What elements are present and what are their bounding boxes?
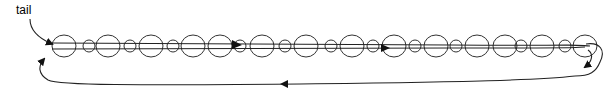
bead-large bbox=[382, 35, 406, 57]
bead-large bbox=[465, 35, 489, 57]
bead-small bbox=[450, 40, 462, 52]
turn-arrow-right bbox=[585, 50, 592, 67]
bead-small bbox=[367, 40, 379, 52]
return-path-bottom bbox=[40, 59, 575, 85]
thread-lower bbox=[52, 47, 585, 49]
bead-chain bbox=[52, 35, 597, 57]
bead-large bbox=[250, 35, 274, 57]
bead-large bbox=[181, 35, 205, 57]
bead-small bbox=[279, 40, 291, 52]
return-arrow-icon-bottom bbox=[280, 80, 288, 88]
bead-large bbox=[294, 35, 318, 57]
bead-large bbox=[530, 35, 554, 57]
bead-small bbox=[559, 40, 571, 52]
bead-small bbox=[83, 40, 95, 52]
bead-small bbox=[167, 40, 179, 52]
tail-pointer-arrow bbox=[30, 19, 52, 44]
bead-large bbox=[424, 35, 448, 57]
bead-large bbox=[96, 35, 120, 57]
tail-label: tail bbox=[16, 3, 31, 17]
bead-small bbox=[124, 40, 136, 52]
bead-small bbox=[409, 40, 421, 52]
bead-large bbox=[208, 35, 232, 57]
thread-upper bbox=[52, 43, 590, 46]
bead-large bbox=[340, 35, 364, 57]
bead-large bbox=[493, 35, 517, 57]
linked-bead-loop-diagram: tail bbox=[0, 0, 606, 92]
bead-large bbox=[52, 35, 76, 57]
bead-large bbox=[139, 35, 163, 57]
bead-small bbox=[325, 40, 337, 52]
turn-loop-right bbox=[575, 44, 602, 76]
